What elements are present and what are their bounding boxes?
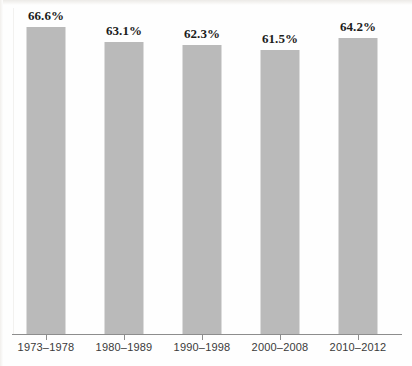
bar-group: 66.6% [10, 0, 82, 334]
x-axis-tick [46, 335, 47, 340]
x-axis-tick [358, 335, 359, 340]
bar-value-label: 62.3% [184, 26, 220, 42]
x-axis-tick [202, 335, 203, 340]
x-axis-category-label: 1980–1989 [81, 341, 167, 353]
x-axis-labels: 1973–19781980–19891990–19982000–20082010… [0, 341, 412, 366]
bar-group: 64.2% [322, 0, 394, 334]
bar-value-label: 61.5% [262, 31, 298, 47]
bar [261, 50, 300, 334]
x-axis-category-label: 1973–1978 [3, 341, 89, 353]
bar [183, 45, 222, 334]
bar [105, 42, 144, 334]
bar-group: 62.3% [166, 0, 238, 334]
x-axis-category-label: 2000–2008 [237, 341, 323, 353]
plot-area: 66.6%63.1%62.3%61.5%64.2% [0, 0, 412, 334]
bar [27, 27, 66, 334]
bar-group: 63.1% [88, 0, 160, 334]
x-axis-tick [124, 335, 125, 340]
bar-group: 61.5% [244, 0, 316, 334]
bar [339, 38, 378, 334]
x-axis-tick [280, 335, 281, 340]
x-axis-line [12, 334, 402, 335]
bar-chart: 66.6%63.1%62.3%61.5%64.2% 1973–19781980–… [0, 0, 412, 366]
bar-value-label: 66.6% [28, 8, 64, 24]
x-axis-category-label: 2010–2012 [315, 341, 401, 353]
bar-value-label: 64.2% [340, 19, 376, 35]
bars-layer: 66.6%63.1%62.3%61.5%64.2% [0, 0, 412, 334]
x-axis-category-label: 1990–1998 [159, 341, 245, 353]
bar-value-label: 63.1% [106, 23, 142, 39]
